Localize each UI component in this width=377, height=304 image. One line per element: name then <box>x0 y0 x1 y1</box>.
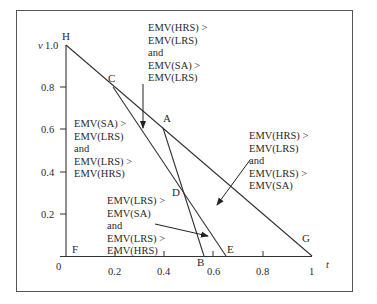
region-note-right: EMV(HRS) > EMV(LRS) and EMV(LRS) > EMV(S… <box>249 130 308 193</box>
region-note-left: EMV(SA) > EMV(LRS) and EMV(LRS) > EMV(HR… <box>74 118 132 181</box>
x-tick-label: 0.4 <box>157 266 171 277</box>
y-tick-label: 0.4 <box>41 167 55 178</box>
y-axis-label: v <box>38 40 43 51</box>
x-axis-label: t <box>326 259 330 270</box>
point-label-G: G <box>302 232 310 244</box>
x-tick-label: 0.6 <box>207 266 220 277</box>
y-tick-label: 1.0 <box>45 40 58 51</box>
line-A-B <box>163 128 204 256</box>
y-tick-label: 0.2 <box>41 209 54 220</box>
x-tick-label: 0 <box>56 261 61 272</box>
point-label-C: C <box>108 72 115 84</box>
region-note-top: EMV(HRS) > EMV(LRS) and EMV(SA) > EMV(LR… <box>148 22 207 85</box>
y-tick-label: 0.6 <box>41 124 54 135</box>
x-tick-label: 0.8 <box>256 266 269 277</box>
point-label-F: F <box>72 243 78 255</box>
y-tick-label: 0.8 <box>41 82 54 93</box>
point-label-D: D <box>172 186 180 198</box>
region-note-bottom: EMV(LRS) > EMV(SA) and EMV(LRS) > EMV(HR… <box>107 195 165 258</box>
point-label-B: B <box>197 256 204 268</box>
y-ticks <box>60 87 66 214</box>
point-label-E: E <box>227 243 234 255</box>
x-tick-label: 1 <box>309 266 314 277</box>
x-tick-label: 0.2 <box>108 266 121 277</box>
point-label-A: A <box>163 112 171 124</box>
point-label-H: H <box>62 30 70 42</box>
